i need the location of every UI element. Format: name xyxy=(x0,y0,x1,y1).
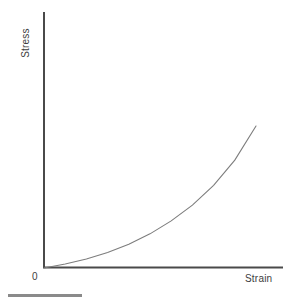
y-axis-label: Stress xyxy=(21,16,33,70)
plot-area xyxy=(0,0,297,303)
origin-label: 0 xyxy=(32,272,38,282)
stress-strain-curve xyxy=(44,126,256,268)
stress-strain-chart: Stress Strain 0 xyxy=(0,0,297,303)
footer-rule xyxy=(8,294,82,297)
x-axis-label: Strain xyxy=(245,274,272,284)
